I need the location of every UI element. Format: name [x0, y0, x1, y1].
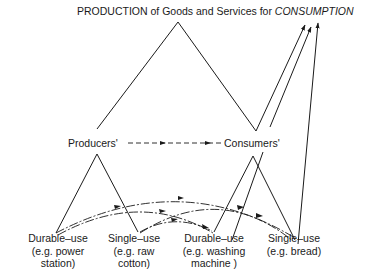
node-durable-power-line1: Durable–use: [18, 232, 98, 245]
title-emphasis: CONSUMPTION: [275, 5, 354, 17]
node-durable-washing-line1: Durable–use: [178, 232, 250, 245]
node-single-rawcotton-line1: Single–use: [104, 232, 164, 245]
node-durable-washing-line3: machine ): [178, 257, 250, 270]
node-single-rawcotton: Single–use (e.g. raw cotton): [104, 232, 164, 270]
flow-rawcotton-to-washing: [140, 222, 212, 232]
consumption-arrow-1: [256, 25, 305, 131]
node-durable-washing: Durable–use (e.g. washing machine ): [178, 232, 250, 270]
node-single-bread-line2: (e.g. bread): [262, 245, 326, 258]
node-single-rawcotton-line3: cotton): [104, 257, 164, 270]
consumers-label: Consumers': [224, 137, 280, 150]
curve-arrowhead-1: [178, 196, 184, 200]
dashed-arrowhead-2: [205, 141, 211, 145]
node-durable-washing-line2: (e.g. washing: [178, 245, 250, 258]
consumption-arrow-3: [298, 23, 318, 244]
consumption-arrow-2: [270, 27, 311, 127]
production-peak-line: [97, 22, 256, 131]
node-single-rawcotton-line2: (e.g. raw: [104, 245, 164, 258]
node-durable-power-line2: (e.g. power: [18, 245, 98, 258]
node-single-bread: Single–use (e.g. bread): [262, 232, 326, 257]
producers-fork: [56, 154, 138, 233]
node-single-bread-line1: Single–use: [262, 232, 326, 245]
curve-arrowhead-6: [256, 213, 263, 218]
curve-arrowhead-7: [202, 224, 209, 229]
dashed-arrowhead-1: [160, 141, 166, 145]
diagram-title: PRODUCTION of Goods and Services for CON…: [77, 5, 354, 17]
node-durable-power-line3: station): [18, 257, 98, 270]
title-prefix: PRODUCTION of Goods and Services for: [77, 5, 275, 17]
producers-label: Producers': [68, 137, 118, 150]
node-durable-power: Durable–use (e.g. power station): [18, 232, 98, 270]
curve-arrowhead-3: [159, 209, 166, 213]
consumers-cross-line: [232, 152, 263, 240]
consumers-fork: [214, 156, 295, 240]
